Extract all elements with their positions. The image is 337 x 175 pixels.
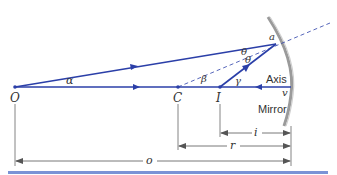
label-O: O [10,92,20,104]
label-v: v [282,88,288,98]
bottom-rule [8,171,328,174]
point-C [176,85,180,89]
dimension-label-r: r [230,140,235,151]
label-a: a [269,32,275,42]
dimension-label-i: i [254,127,258,138]
dimension-label-o: o [146,155,153,166]
label-axis: Axis [266,74,287,85]
label-mirror: Mirror [258,104,287,115]
angle-gamma: γ [235,76,241,86]
angle-theta-reflected: θ [245,55,251,65]
point-O [13,85,17,89]
mirror-diagram: O C I v a α β γ θ θ Axis Mirror i r o [0,0,337,175]
label-C: C [173,92,182,104]
point-I [218,85,222,89]
angle-alpha: α [66,75,73,86]
angle-beta: β [201,74,207,84]
label-I: I [216,92,221,104]
